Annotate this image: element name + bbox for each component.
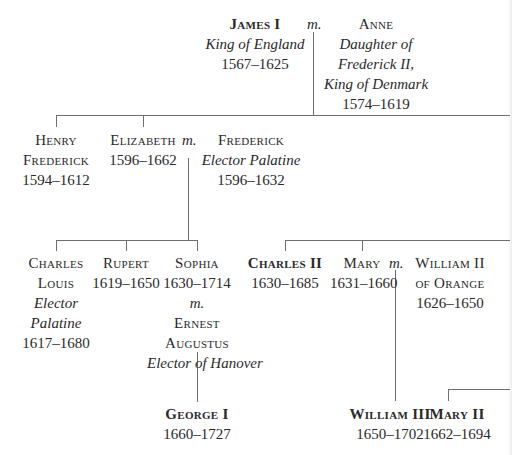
connector-james-anne-down bbox=[313, 32, 314, 116]
connector-henry-drop bbox=[56, 115, 57, 127]
person-sophia: Sophia 1630–1714 m. Ernest Augustus Elec… bbox=[147, 253, 247, 373]
person-name: George I bbox=[152, 404, 242, 424]
spouse-name: Ernest bbox=[147, 313, 247, 333]
person-frederick: Frederick Elector Palatine 1596–1632 bbox=[196, 130, 306, 190]
spouse-name: Augustus bbox=[147, 333, 247, 353]
person-dates: 1660–1727 bbox=[152, 424, 242, 444]
person-title: Daughter of bbox=[320, 34, 432, 54]
person-george-i: George I 1660–1727 bbox=[152, 404, 242, 444]
person-name: Mary bbox=[330, 253, 394, 273]
person-title: King of England bbox=[205, 34, 305, 54]
person-anne: Anne Daughter of Frederick II, King of D… bbox=[320, 14, 432, 114]
marriage-symbol: m. bbox=[182, 130, 197, 150]
person-dates: 1596–1632 bbox=[196, 170, 306, 190]
connector-palatine-children-bar bbox=[56, 240, 198, 241]
person-henry-frederick: Henry Frederick 1594–1612 bbox=[6, 130, 106, 190]
person-james-i: James I King of England 1567–1625 bbox=[205, 14, 305, 74]
connector-gen2-bar bbox=[56, 115, 510, 116]
person-dates: 1574–1619 bbox=[320, 94, 432, 114]
person-dates: 1594–1612 bbox=[6, 170, 106, 190]
person-charles-ii: Charles II 1630–1685 bbox=[240, 253, 330, 293]
person-dates: 1567–1625 bbox=[205, 54, 305, 74]
person-dates: 1662–1694 bbox=[412, 424, 502, 444]
connector-charles-louis-drop bbox=[56, 240, 57, 251]
spouse-title: Elector of Hanover bbox=[147, 353, 247, 373]
person-name: Henry bbox=[6, 130, 106, 150]
connector-elizabeth-drop bbox=[143, 115, 144, 127]
person-mary: Mary 1631–1660 bbox=[330, 253, 394, 293]
person-name: Elizabeth bbox=[98, 130, 188, 150]
connector-mary-drop bbox=[362, 240, 363, 251]
person-name: Frederick bbox=[6, 150, 106, 170]
person-dates: 1630–1685 bbox=[240, 273, 330, 293]
person-name: William II bbox=[400, 253, 500, 273]
person-title: Elector bbox=[11, 293, 101, 313]
person-name: Mary II bbox=[412, 404, 502, 424]
person-dates: 1626–1650 bbox=[400, 293, 500, 313]
person-title: Frederick II, bbox=[320, 54, 432, 74]
person-name: Charles II bbox=[240, 253, 330, 273]
person-title: Elector Palatine bbox=[196, 150, 306, 170]
person-mary-ii: Mary II 1662–1694 bbox=[412, 404, 502, 444]
connector-stuart-children-bar bbox=[285, 240, 510, 241]
connector-sophia-drop bbox=[197, 240, 198, 251]
person-dates: 1617–1680 bbox=[11, 333, 101, 353]
person-elizabeth: Elizabeth 1596–1662 bbox=[98, 130, 188, 170]
connector-rupert-drop bbox=[126, 240, 127, 251]
person-name: Frederick bbox=[196, 130, 306, 150]
page-edge-shadow bbox=[508, 0, 512, 455]
person-dates: 1630–1714 bbox=[147, 273, 247, 293]
person-name: of Orange bbox=[400, 273, 500, 293]
person-name: James I bbox=[205, 14, 305, 34]
marriage-symbol: m. bbox=[147, 293, 247, 313]
connector-mary-ii-bar bbox=[448, 389, 510, 390]
person-name: Sophia bbox=[147, 253, 247, 273]
connector-elizabeth-frederick-down bbox=[188, 158, 189, 241]
connector-charles-ii-drop bbox=[285, 240, 286, 251]
person-dates: 1596–1662 bbox=[98, 150, 188, 170]
person-name: Anne bbox=[320, 14, 432, 34]
person-dates: 1631–1660 bbox=[330, 273, 394, 293]
person-title: Palatine bbox=[11, 313, 101, 333]
person-william-ii: William II of Orange 1626–1650 bbox=[400, 253, 500, 313]
person-title: King of Denmark bbox=[320, 74, 432, 94]
connector-mary-ii-drop bbox=[448, 389, 449, 401]
